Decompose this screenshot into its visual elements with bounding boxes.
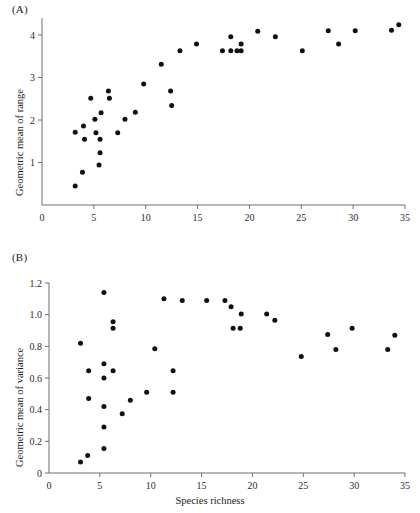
data-point [389, 28, 394, 33]
x-tick-label: 10 [146, 480, 156, 490]
data-point [86, 368, 91, 373]
y-tick-label: 0.4 [30, 404, 43, 415]
data-point [111, 368, 116, 373]
data-point [273, 34, 278, 39]
x-tick-label: 20 [247, 480, 257, 490]
data-point [272, 318, 277, 323]
data-point [255, 29, 260, 34]
y-tick-label: 0.2 [30, 436, 43, 447]
x-tick-label: 35 [400, 212, 410, 223]
data-point [122, 117, 127, 122]
data-point [168, 89, 173, 94]
x-tick-label: 20 [244, 212, 254, 223]
data-point [128, 398, 133, 403]
data-point [229, 304, 234, 309]
data-point [220, 48, 225, 53]
y-tick-label: 1.2 [30, 278, 43, 289]
data-point [73, 130, 78, 135]
x-tick-label: 30 [349, 480, 359, 490]
data-point [78, 459, 83, 464]
data-point [86, 396, 91, 401]
data-point-group [73, 22, 402, 188]
data-point [228, 48, 233, 53]
data-point [222, 298, 227, 303]
y-tick-label: 2 [30, 115, 35, 126]
data-point [194, 41, 199, 46]
data-point [144, 390, 149, 395]
data-point-group [78, 290, 397, 464]
data-point [239, 48, 244, 53]
panel-a: (A) Geometric mean of range 123405101520… [0, 0, 420, 240]
data-point [152, 346, 157, 351]
data-point [85, 453, 90, 458]
data-point [98, 137, 103, 142]
y-tick-label: 3 [30, 72, 35, 83]
data-point [133, 110, 138, 115]
data-point [350, 326, 355, 331]
data-point [264, 311, 269, 316]
data-point [73, 183, 78, 188]
data-point [171, 390, 176, 395]
data-point [101, 446, 106, 451]
panel-b-plot: 00.20.40.60.81.01.205101520253035 [0, 245, 420, 490]
data-point [228, 34, 233, 39]
data-point [82, 137, 87, 142]
x-tick-label: 0 [47, 480, 52, 490]
data-point [115, 130, 120, 135]
data-point [239, 311, 244, 316]
data-point [101, 425, 106, 430]
y-tick-label: 4 [30, 30, 35, 41]
data-point [107, 96, 112, 101]
x-tick-label: 25 [298, 480, 308, 490]
data-point [81, 123, 86, 128]
data-point [177, 48, 182, 53]
data-point [98, 150, 103, 155]
data-point [231, 326, 236, 331]
data-point [180, 298, 185, 303]
data-point [141, 81, 146, 86]
scatter-figure: (A) Geometric mean of range 123405101520… [0, 0, 420, 513]
x-tick-label: 15 [193, 212, 203, 223]
data-point [299, 354, 304, 359]
data-point [204, 298, 209, 303]
data-point [169, 103, 174, 108]
data-point [300, 48, 305, 53]
y-tick-label: 0.8 [30, 341, 43, 352]
data-point [385, 347, 390, 352]
data-point [92, 117, 97, 122]
x-tick-label: 35 [400, 480, 410, 490]
data-point [80, 170, 85, 175]
data-point [171, 368, 176, 373]
y-tick-label: 0.6 [30, 373, 43, 384]
data-point [111, 326, 116, 331]
data-point [326, 28, 331, 33]
data-point [99, 110, 104, 115]
data-point [93, 130, 98, 135]
data-point [239, 41, 244, 46]
data-point [101, 290, 106, 295]
x-tick-label: 5 [91, 212, 96, 223]
panel-a-plot: 123405101520253035 [0, 0, 420, 240]
data-point [88, 96, 93, 101]
panel-b: (B) Geometric mean of variance 00.20.40.… [0, 245, 420, 513]
x-tick-label: 5 [97, 480, 102, 490]
data-point [336, 41, 341, 46]
y-tick-label: 1.0 [30, 309, 43, 320]
y-tick-label: 1 [30, 157, 35, 168]
x-tick-label: 25 [296, 212, 306, 223]
shared-x-axis-label: Species richness [0, 495, 420, 506]
data-point [78, 341, 83, 346]
data-point [396, 22, 401, 27]
data-point [101, 404, 106, 409]
data-point [159, 62, 164, 67]
x-tick-label: 30 [348, 212, 358, 223]
data-point [325, 332, 330, 337]
x-tick-label: 10 [141, 212, 151, 223]
data-point [111, 319, 116, 324]
data-point [161, 296, 166, 301]
data-point [392, 333, 397, 338]
x-tick-label: 0 [40, 212, 45, 223]
data-point [333, 347, 338, 352]
data-point [353, 28, 358, 33]
data-point [106, 89, 111, 94]
